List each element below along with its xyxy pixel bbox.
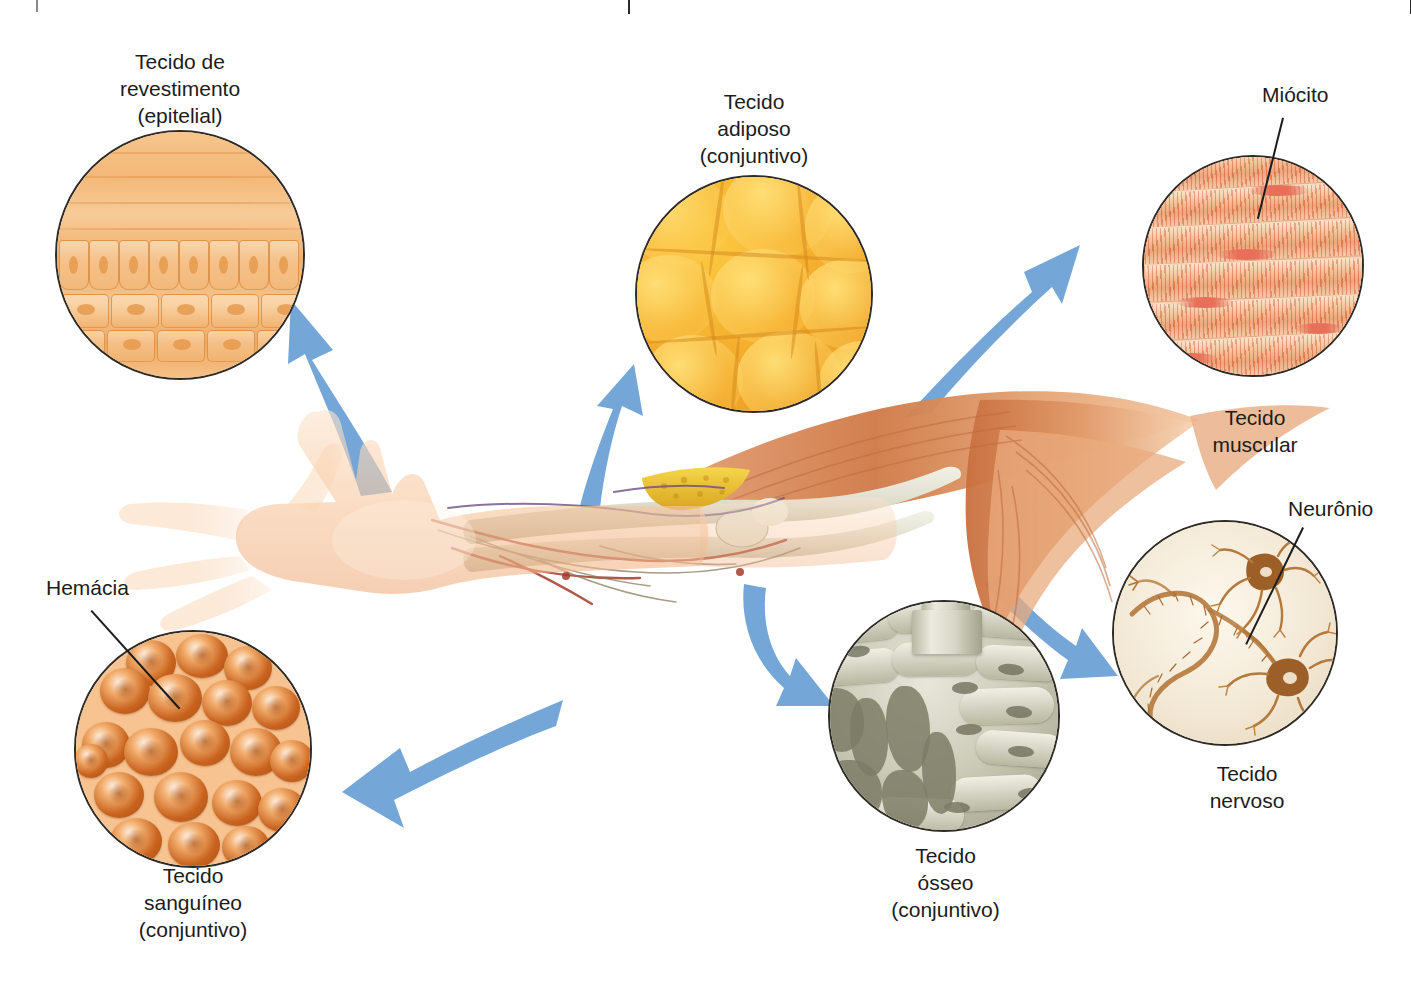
neuron-drawing — [1114, 522, 1338, 746]
micrograph-nervous[interactable] — [1112, 520, 1338, 746]
label-miocito: Miócito — [1262, 82, 1329, 108]
caption-epithelial: Tecido de revestimento (epitelial) — [45, 48, 315, 129]
micrograph-adipose[interactable] — [635, 175, 873, 413]
neuron-soma-lower — [1219, 623, 1338, 735]
myocyte-nucleus — [1164, 353, 1218, 364]
caption-muscle: Tecido muscular — [1150, 404, 1360, 458]
micrograph-muscle[interactable] — [1142, 155, 1364, 377]
bone-shaft-base — [912, 610, 982, 654]
caption-nervous: Tecido nervoso — [1142, 760, 1352, 814]
label-hemacia: Hemácia — [46, 575, 129, 601]
myocyte-nucleus — [1176, 297, 1234, 308]
label-neuronio: Neurônio — [1288, 496, 1373, 522]
myocyte-nucleus — [1248, 185, 1310, 196]
caption-blood: Tecido sanguíneo (conjuntivo) — [78, 862, 308, 943]
micrograph-epithelial[interactable] — [55, 130, 305, 380]
micrograph-bone[interactable] — [828, 600, 1060, 832]
caption-bone: Tecido ósseo (conjuntivo) — [838, 842, 1053, 923]
myocyte-nucleus — [1216, 249, 1278, 260]
caption-adipose: Tecido adiposo (conjuntivo) — [634, 88, 874, 169]
figure-canvas: Esquema de tecidos do corpo humano — [0, 0, 1411, 986]
micrograph-blood[interactable] — [74, 630, 312, 868]
epithelial-cell-rows — [57, 132, 303, 378]
myocyte-nucleus — [1294, 323, 1344, 334]
